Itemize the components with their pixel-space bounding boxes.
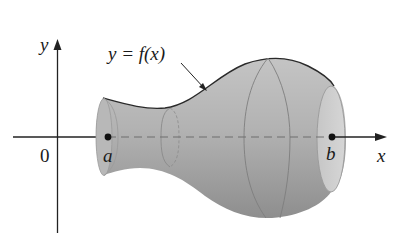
y-axis-arrow-icon bbox=[54, 39, 62, 50]
y-axis-label: y bbox=[40, 35, 48, 54]
point-b-label: b bbox=[326, 144, 336, 163]
origin-label: 0 bbox=[40, 146, 50, 165]
point-b-dot bbox=[329, 134, 336, 141]
solid-of-revolution-diagram bbox=[0, 0, 405, 247]
x-axis-label: x bbox=[377, 146, 385, 165]
curve-label: y = f(x) bbox=[108, 44, 165, 63]
point-a-label: a bbox=[103, 146, 113, 165]
x-axis-arrow-icon bbox=[375, 133, 387, 141]
point-a-dot bbox=[105, 134, 112, 141]
solid-body bbox=[96, 59, 346, 219]
curve-label-leader bbox=[181, 63, 204, 88]
